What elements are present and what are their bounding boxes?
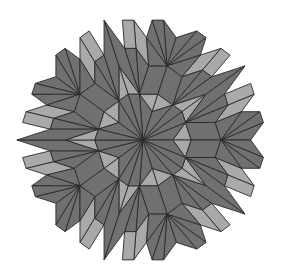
kite-tile: [185, 140, 220, 157]
dart-tile: [122, 232, 136, 260]
penrose-tiling-diagram: [0, 0, 287, 274]
kite-tile: [185, 123, 220, 140]
dart-tile: [122, 20, 136, 48]
tiles-group: [17, 20, 263, 260]
